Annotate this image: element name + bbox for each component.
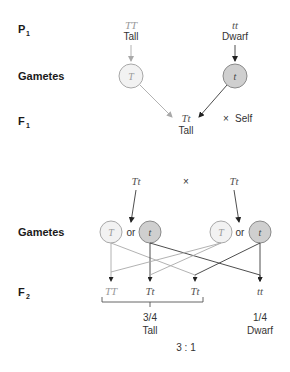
gamete-recessive-t: t — [223, 64, 247, 88]
svg-text:F: F — [18, 115, 25, 127]
f1-cross-left-parent: Tt — [131, 175, 141, 187]
tall-fraction: 3/4 — [143, 312, 157, 323]
parent-dwarf-genotype: tt — [232, 19, 239, 31]
row-label-gametes-2: Gametes — [18, 226, 64, 238]
f1-genotype: Tt — [181, 112, 191, 124]
arrow-left-parent-to-gametes — [131, 190, 136, 222]
f1-cross-label: Self — [235, 113, 252, 124]
parent-dwarf-phenotype: Dwarf — [222, 31, 248, 42]
punnett-lines — [111, 243, 260, 281]
f1-cross-symbol: × — [223, 113, 229, 124]
f1-gamete-right-T: T — [210, 221, 232, 243]
svg-text:F: F — [18, 286, 25, 298]
svg-text:t: t — [149, 227, 152, 238]
f2-offspring-4: tt — [257, 285, 264, 297]
f2-offspring-1: TT — [105, 285, 118, 297]
tall-group-bracket — [102, 297, 203, 307]
row-label-gametes-1: Gametes — [18, 70, 64, 82]
f2-offspring-3: Tt — [190, 285, 200, 297]
f1-gamete-left-t: t — [139, 221, 161, 243]
svg-text:P: P — [18, 23, 25, 35]
f1-phenotype: Tall — [178, 125, 193, 136]
f1-cross-right-parent: Tt — [229, 175, 239, 187]
dwarf-fraction: 1/4 — [253, 312, 267, 323]
row-label-f2: F 2 — [18, 286, 30, 300]
svg-text:1: 1 — [26, 122, 30, 129]
svg-text:1: 1 — [26, 30, 30, 37]
f1-gamete-right-or: or — [236, 227, 246, 238]
tall-phenotype: Tall — [142, 325, 157, 336]
monohybrid-cross-diagram: P 1 Gametes F 1 Gametes F 2 TT Tall tt D… — [0, 0, 290, 372]
arrow-T-to-f1 — [140, 85, 172, 117]
f2-offspring-2: Tt — [145, 285, 155, 297]
f1-cross-symbol-2: × — [183, 176, 189, 187]
f1-gamete-right-t: t — [249, 221, 271, 243]
svg-text:t: t — [234, 71, 237, 82]
phenotypic-ratio: 3 : 1 — [176, 342, 196, 353]
gamete-dominant-T: T — [119, 64, 143, 88]
dwarf-phenotype: Dwarf — [247, 325, 273, 336]
row-label-p1: P 1 — [18, 23, 30, 37]
parent-tall-phenotype: Tall — [123, 31, 138, 42]
row-label-f1: F 1 — [18, 115, 30, 129]
svg-text:t: t — [259, 227, 262, 238]
arrow-right-parent-to-gametes — [234, 190, 239, 222]
f1-gamete-left-T: T — [100, 221, 122, 243]
f1-gamete-left-or: or — [127, 227, 137, 238]
svg-text:2: 2 — [26, 293, 30, 300]
parent-tall-genotype: TT — [125, 19, 138, 31]
